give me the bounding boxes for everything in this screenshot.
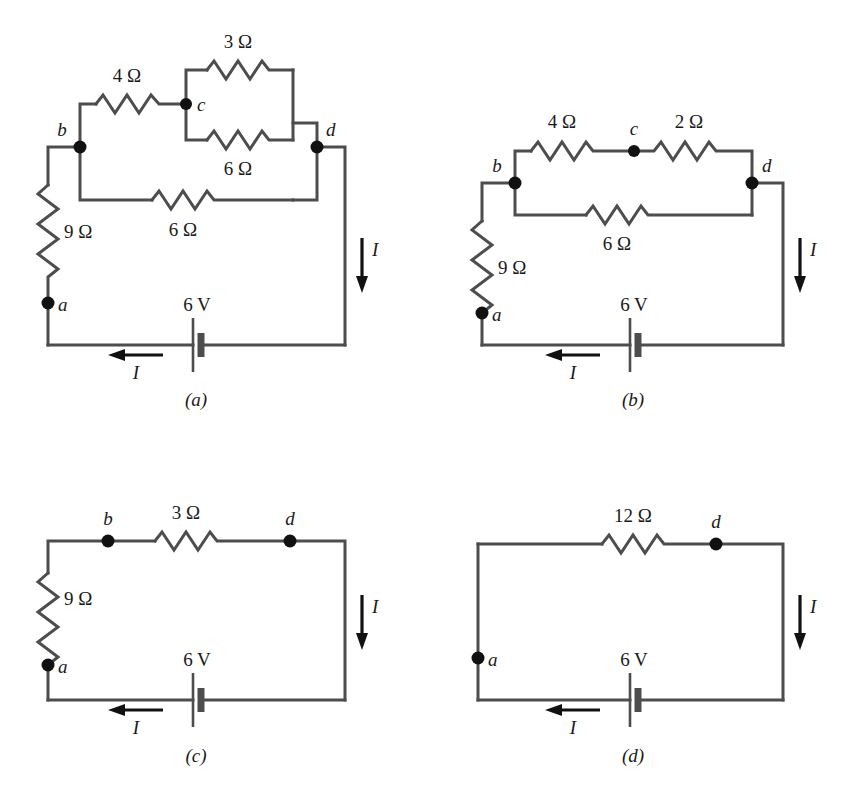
node-b-c-dot bbox=[628, 145, 640, 157]
circuit-d: d a 12 Ω 6 V I I (d) bbox=[472, 505, 819, 767]
resistor-b-6ohm bbox=[586, 206, 752, 224]
resistor-label-a-3ohm: 3 Ω bbox=[224, 31, 252, 52]
node-label-a-c: c bbox=[197, 94, 206, 115]
wire-a-6ohm-bottom-to-d bbox=[293, 147, 317, 200]
resistor-a-9ohm bbox=[38, 185, 58, 345]
source-label-a: 6 V bbox=[183, 294, 211, 315]
resistor-label-c-9ohm: 9 Ω bbox=[64, 588, 92, 609]
current-label-d-bottom: I bbox=[569, 717, 578, 738]
resistor-label-c-3ohm: 3 Ω bbox=[172, 502, 200, 523]
resistor-a-6ohm-parallel bbox=[207, 131, 293, 149]
circuit-a: b c d a 4 Ω 3 Ω 6 Ω 6 Ω 9 Ω 6 V I I (a) bbox=[38, 31, 380, 411]
current-arrow-b-bottom bbox=[545, 349, 600, 361]
node-c-d-dot bbox=[284, 535, 297, 548]
node-b-b-dot bbox=[509, 177, 522, 190]
node-label-a-a: a bbox=[58, 294, 68, 315]
resistor-d-12ohm bbox=[602, 535, 716, 553]
node-d-d-dot bbox=[710, 538, 723, 551]
source-label-c: 6 V bbox=[183, 649, 211, 670]
wire-b-b-to-6ohm bbox=[515, 183, 586, 215]
node-label-b-d: d bbox=[762, 155, 772, 176]
wire-c-left-top bbox=[48, 541, 108, 573]
node-label-b-b: b bbox=[492, 155, 502, 176]
resistor-c-3ohm bbox=[155, 532, 290, 550]
node-a-a-dot bbox=[42, 297, 55, 310]
node-label-d-a: a bbox=[488, 649, 498, 670]
resistor-label-b-4ohm: 4 Ω bbox=[548, 111, 576, 132]
wire-a-b-to-4ohm bbox=[80, 104, 96, 147]
resistor-label-d-12ohm: 12 Ω bbox=[614, 505, 652, 526]
current-label-c-bottom: I bbox=[132, 717, 141, 738]
current-label-b-bottom: I bbox=[569, 362, 578, 383]
resistor-a-6ohm-bottom bbox=[152, 191, 293, 209]
node-a-b-dot bbox=[74, 141, 87, 154]
current-arrow-a-right bbox=[356, 238, 368, 293]
node-b-d-dot bbox=[746, 177, 759, 190]
current-arrow-c-right bbox=[356, 595, 368, 650]
current-arrow-a-bottom bbox=[108, 349, 163, 361]
node-label-a-d: d bbox=[326, 119, 336, 140]
source-label-d: 6 V bbox=[620, 649, 648, 670]
current-arrow-d-bottom bbox=[545, 704, 600, 716]
node-label-a-b: b bbox=[57, 119, 67, 140]
current-arrow-d-right bbox=[794, 595, 806, 650]
current-arrow-c-bottom bbox=[108, 704, 163, 716]
wire-a-left-top bbox=[48, 147, 80, 185]
circuit-c: b d a 3 Ω 9 Ω 6 V I I (c) bbox=[38, 502, 380, 767]
wire-c-right bbox=[290, 541, 345, 700]
resistor-label-b-2ohm: 2 Ω bbox=[675, 111, 703, 132]
wire-b-right bbox=[752, 183, 783, 345]
node-label-b-a: a bbox=[492, 304, 502, 325]
source-label-b: 6 V bbox=[620, 294, 648, 315]
wire-a-3ohm-to-right-rail bbox=[293, 70, 317, 147]
node-a-c-dot bbox=[180, 98, 192, 110]
caption-a: (a) bbox=[185, 389, 207, 411]
resistor-label-a-6ohm-parallel: 6 Ω bbox=[224, 158, 252, 179]
caption-c: (c) bbox=[185, 745, 206, 767]
wire-b-left-top bbox=[482, 183, 515, 221]
current-label-a-bottom: I bbox=[132, 362, 141, 383]
node-label-b-c: c bbox=[630, 118, 639, 139]
wire-d-right bbox=[716, 544, 783, 700]
current-label-b-right: I bbox=[809, 239, 818, 260]
current-label-a-right: I bbox=[371, 239, 380, 260]
resistor-label-b-9ohm: 9 Ω bbox=[498, 257, 526, 278]
node-label-c-d: d bbox=[285, 508, 295, 529]
caption-d: (d) bbox=[622, 745, 644, 767]
node-c-a-dot bbox=[42, 659, 55, 672]
resistor-b-9ohm bbox=[472, 221, 492, 345]
current-label-c-right: I bbox=[371, 596, 380, 617]
circuit-b: b c d a 4 Ω 2 Ω 6 Ω 9 Ω 6 V I I (b) bbox=[472, 111, 818, 411]
resistor-label-a-4ohm: 4 Ω bbox=[113, 65, 141, 86]
resistor-b-2ohm bbox=[634, 142, 752, 183]
node-a-d-dot bbox=[311, 141, 324, 154]
wire-a-right bbox=[317, 147, 345, 345]
resistor-label-a-6ohm-bottom: 6 Ω bbox=[169, 219, 197, 240]
resistor-a-3ohm bbox=[207, 61, 293, 79]
wire-a-b-to-6ohm-bottom bbox=[80, 147, 152, 200]
resistor-a-4ohm bbox=[96, 95, 186, 113]
caption-b: (b) bbox=[622, 389, 644, 411]
node-label-c-a: a bbox=[58, 656, 68, 677]
circuit-figure: b c d a 4 Ω 3 Ω 6 Ω 6 Ω 9 Ω 6 V I I (a) bbox=[0, 0, 851, 800]
node-d-a-dot bbox=[472, 652, 485, 665]
resistor-label-a-9ohm: 9 Ω bbox=[64, 221, 92, 242]
current-arrow-b-right bbox=[794, 238, 806, 293]
node-label-d-d: d bbox=[711, 511, 721, 532]
resistor-b-4ohm bbox=[531, 142, 634, 160]
node-label-c-b: b bbox=[103, 508, 113, 529]
resistor-c-9ohm bbox=[38, 573, 58, 700]
node-b-a-dot bbox=[476, 307, 489, 320]
node-c-b-dot bbox=[102, 535, 115, 548]
current-label-d-right: I bbox=[809, 596, 818, 617]
resistor-label-b-6ohm: 6 Ω bbox=[603, 233, 631, 254]
